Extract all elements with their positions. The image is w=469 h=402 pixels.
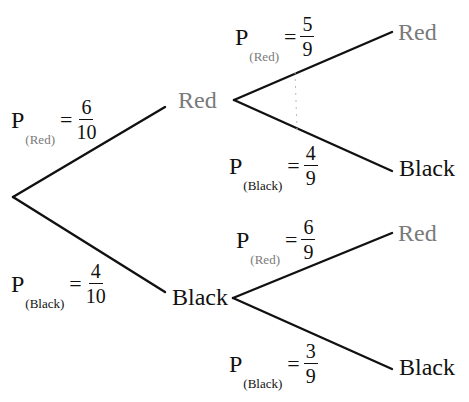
prob-letter: P: [11, 272, 24, 296]
prob-subscript: (Black): [25, 296, 64, 312]
equals-sign: =: [284, 24, 296, 50]
numerator: 3: [304, 341, 318, 364]
prob-label-black-black: P (Black) = 3 9: [229, 341, 318, 386]
prob-label-red-level1: P (Red) = 6 10: [11, 97, 96, 142]
node-black-level1: Black: [172, 285, 228, 309]
equals-sign: =: [60, 107, 72, 133]
denominator: 9: [306, 166, 316, 188]
numerator: 5: [300, 14, 314, 37]
denominator: 9: [302, 37, 312, 59]
node-black-black: Black: [399, 355, 455, 379]
prob-label-black-level1: P (Black) = 4 10: [11, 261, 106, 306]
prob-letter: P: [229, 154, 242, 178]
node-black-red: Red: [398, 221, 437, 245]
fraction: 6 10: [76, 97, 96, 142]
artifact-dotted-line: [295, 72, 297, 130]
fraction: 6 9: [301, 217, 315, 262]
numerator: 4: [304, 143, 318, 166]
denominator: 9: [303, 240, 313, 262]
numerator: 4: [89, 261, 103, 284]
fraction: 4 9: [304, 143, 318, 188]
equals-sign: =: [287, 153, 299, 179]
prob-label-red-black: P (Black) = 4 9: [229, 143, 318, 188]
prob-label-red-red: P (Red) = 5 9: [235, 14, 314, 59]
prob-letter: P: [11, 108, 24, 132]
prob-subscript: (Red): [25, 132, 55, 148]
equals-sign: =: [69, 271, 81, 297]
node-red-black: Black: [399, 156, 455, 180]
numerator: 6: [79, 97, 93, 120]
prob-letter: P: [236, 228, 249, 252]
prob-subscript: (Black): [243, 178, 282, 194]
node-red-red: Red: [398, 20, 437, 44]
denominator: 9: [306, 364, 316, 386]
prob-label-black-red: P (Red) = 6 9: [236, 217, 315, 262]
equals-sign: =: [285, 227, 297, 253]
fraction: 4 10: [86, 261, 106, 306]
prob-letter: P: [235, 25, 248, 49]
denominator: 10: [86, 284, 106, 306]
equals-sign: =: [287, 351, 299, 377]
prob-subscript: (Red): [249, 49, 279, 65]
node-red-level1: Red: [178, 88, 217, 112]
numerator: 6: [301, 217, 315, 240]
prob-subscript: (Black): [243, 376, 282, 392]
fraction: 3 9: [304, 341, 318, 386]
prob-letter: P: [229, 352, 242, 376]
prob-subscript: (Red): [250, 252, 280, 268]
denominator: 10: [76, 120, 96, 142]
fraction: 5 9: [300, 14, 314, 59]
